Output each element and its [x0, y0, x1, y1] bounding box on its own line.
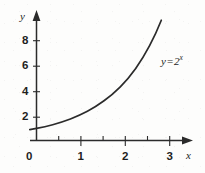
y-tick-label-4: 4 [22, 86, 28, 98]
y-axis-label: y [20, 11, 25, 22]
equation-exponent-x: x [180, 53, 183, 62]
y-axis-arrow-icon [33, 10, 41, 21]
y-tick-label-8: 8 [22, 35, 28, 47]
plot-canvas [0, 0, 205, 173]
x-axis-label: x [186, 150, 191, 161]
equation-equals-sign: = [166, 55, 174, 67]
curve-equation-label: y=2x [161, 56, 183, 67]
x-tick-label-3: 3 [167, 151, 173, 163]
y-tick-label-6: 6 [22, 60, 28, 72]
x-axis-arrow-icon [182, 137, 193, 145]
exponential-curve [30, 20, 162, 129]
x-tick-label-1: 1 [78, 151, 84, 163]
x-tick-label-2: 2 [122, 151, 128, 163]
exponential-function-graph-figure: y x 8 6 4 2 0 1 2 3 y=2x [0, 0, 205, 173]
x-tick-label-0: 0 [26, 151, 32, 163]
y-tick-label-2: 2 [22, 111, 28, 123]
